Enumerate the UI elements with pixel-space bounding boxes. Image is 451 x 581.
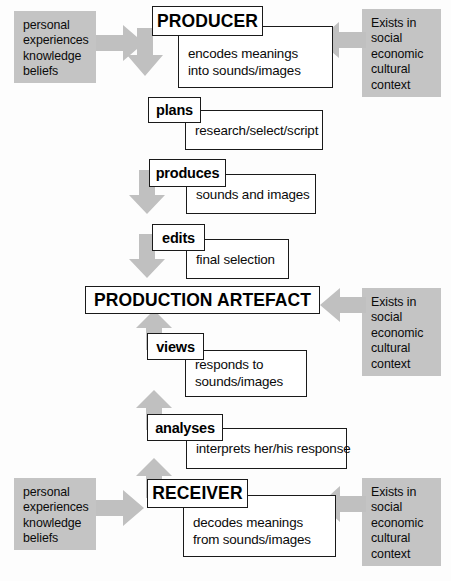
context-panel-social-producer: Exists in social economic cultural conte… — [362, 9, 441, 97]
context-panel-social-artefact: Exists in social economic cultural conte… — [362, 288, 441, 376]
analyses-label-box: analyses — [147, 414, 223, 441]
plans-label: plans — [156, 102, 193, 118]
analyses-label: analyses — [155, 420, 215, 436]
edits-description: final selection — [196, 252, 296, 269]
edits-label: edits — [162, 230, 195, 246]
arrow-right-to-receiver-icon — [96, 490, 144, 526]
producer-description: encodes meanings into sounds/images — [188, 46, 334, 79]
receiver-description: decodes meanings from sounds/images — [193, 515, 341, 548]
edits-label-box: edits — [152, 224, 205, 251]
diagram-canvas: personal experiences knowledge beliefs E… — [0, 0, 451, 581]
production-artefact-label: PRODUCTION ARTEFACT — [94, 290, 311, 311]
analyses-description: interprets her/his response — [196, 441, 353, 458]
views-label-box: views — [147, 333, 204, 360]
context-panel-personal-receiver: personal experiences knowledge beliefs — [14, 478, 96, 550]
produces-description: sounds and images — [196, 187, 322, 204]
context-panel-social-receiver: Exists in social economic cultural conte… — [362, 478, 441, 566]
plans-label-box: plans — [148, 97, 201, 123]
context-panel-personal-producer: personal experiences knowledge beliefs — [14, 11, 96, 83]
producer-label-box: PRODUCER — [152, 6, 263, 36]
receiver-label: RECEIVER — [152, 483, 242, 504]
plans-description: research/select/script — [195, 123, 327, 140]
arrow-left-to-artefact-icon — [320, 288, 366, 322]
producer-label: PRODUCER — [157, 11, 258, 32]
receiver-label-box: RECEIVER — [147, 479, 248, 508]
production-artefact-box: PRODUCTION ARTEFACT — [85, 286, 320, 314]
produces-label-box: produces — [149, 159, 226, 187]
views-description: responds to sounds/images — [195, 357, 313, 390]
produces-label: produces — [156, 165, 220, 181]
views-label: views — [156, 339, 195, 355]
